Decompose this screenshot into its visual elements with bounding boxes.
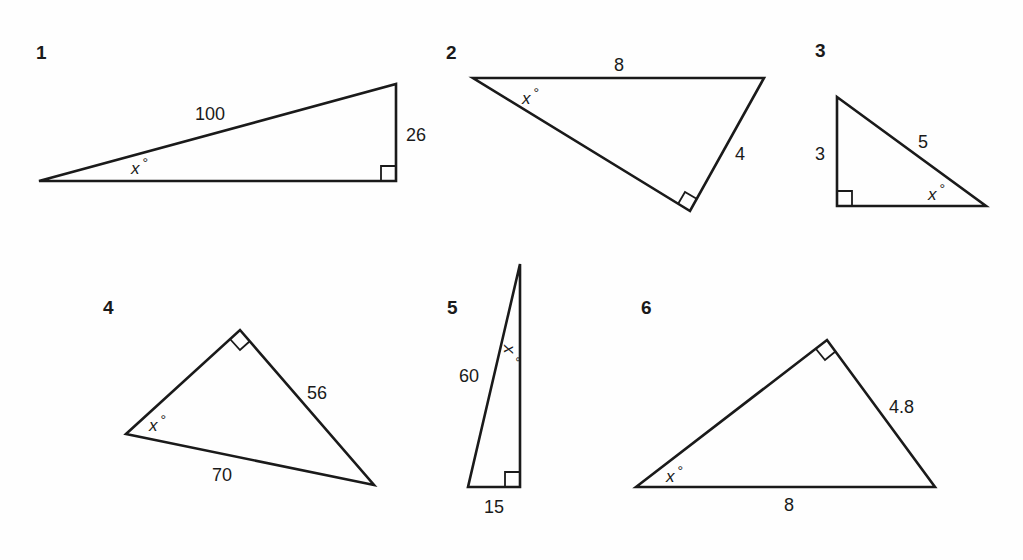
side-label-opposite-6: 4.8 — [889, 398, 914, 416]
side-label-opposite-3: 3 — [815, 145, 825, 163]
problem-number-4: 4 — [103, 298, 114, 317]
degree-symbol: ° — [534, 85, 540, 101]
side-label-hypotenuse-1: 100 — [195, 105, 225, 123]
side-label-hypotenuse-6: 8 — [784, 496, 794, 514]
degree-symbol: ° — [507, 357, 523, 363]
side-label-hypotenuse-2: 8 — [614, 56, 624, 74]
problem-number-5: 5 — [447, 298, 458, 317]
angle-label-3: x° — [928, 186, 945, 203]
degree-symbol: ° — [940, 181, 946, 197]
angle-label-4: x° — [149, 417, 166, 434]
triangle-2 — [473, 78, 764, 211]
side-label-hypotenuse-4: 70 — [212, 466, 232, 484]
angle-variable: x — [500, 345, 519, 354]
degree-symbol: ° — [161, 412, 167, 428]
triangle-4 — [126, 330, 374, 485]
angle-label-2: x° — [522, 90, 539, 107]
side-label-opposite-4: 56 — [307, 384, 327, 402]
angle-variable: x — [928, 185, 937, 204]
side-label-opposite-2: 4 — [735, 145, 745, 163]
right-angle-marker-1 — [381, 166, 396, 181]
angle-variable: x — [522, 89, 531, 108]
angle-variable: x — [149, 416, 158, 435]
triangles-drawing — [0, 0, 1023, 560]
angle-label-1: x° — [131, 160, 148, 177]
angle-label-6: x° — [666, 468, 683, 485]
degree-symbol: ° — [678, 463, 684, 479]
angle-label-5: x° — [501, 345, 518, 362]
side-label-opposite-1: 26 — [406, 126, 426, 144]
triangle-3 — [837, 97, 986, 206]
problem-number-3: 3 — [815, 41, 826, 60]
degree-symbol: ° — [143, 155, 149, 171]
side-label-hypotenuse-3: 5 — [918, 133, 928, 151]
side-label-opposite-5: 15 — [484, 498, 504, 516]
problem-number-2: 2 — [446, 43, 457, 62]
right-angle-marker-4 — [230, 339, 250, 350]
triangle-diagram: 1 2 3 4 5 6 100 26 x° 8 4 x° 3 5 x° 56 7… — [0, 0, 1023, 560]
right-angle-marker-3 — [837, 191, 852, 206]
problem-number-6: 6 — [641, 298, 652, 317]
right-angle-marker-6 — [816, 349, 836, 360]
triangle-1 — [39, 84, 396, 181]
angle-variable: x — [666, 467, 675, 486]
angle-variable: x — [131, 159, 140, 178]
side-label-hypotenuse-5: 60 — [459, 367, 479, 385]
right-angle-marker-5 — [505, 472, 520, 487]
problem-number-1: 1 — [36, 43, 47, 62]
